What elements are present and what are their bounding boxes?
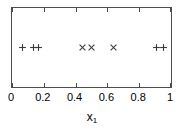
x-tick-top-0 <box>12 8 13 12</box>
x-tick-top-3 <box>107 8 108 12</box>
data-point-cross-1-2 <box>109 43 118 52</box>
x-tick-bottom-5 <box>170 83 171 87</box>
x-axis-title: x1 <box>0 110 184 126</box>
x-tick-label-3: 0.6 <box>99 91 114 104</box>
x-tick-bottom-2 <box>76 83 77 87</box>
data-point-cross-1-0 <box>78 43 87 52</box>
plot-area-frame <box>11 7 172 88</box>
x-tick-top-4 <box>139 8 140 12</box>
x-tick-top-1 <box>44 8 45 12</box>
x-tick-label-5: 1 <box>167 91 173 104</box>
data-point-plus-0-4 <box>159 43 168 52</box>
data-point-plus-0-0 <box>18 43 27 52</box>
x-tick-label-0: 0 <box>8 91 14 104</box>
x-tick-top-5 <box>170 8 171 12</box>
x-tick-label-2: 0.4 <box>67 91 82 104</box>
x-tick-bottom-0 <box>12 83 13 87</box>
x-tick-bottom-4 <box>139 83 140 87</box>
x-axis-title-base: x <box>87 110 93 124</box>
data-point-plus-0-2 <box>34 43 43 52</box>
x-tick-label-4: 0.8 <box>131 91 146 104</box>
x-tick-bottom-1 <box>44 83 45 87</box>
chart-figure: 00.20.40.60.81 x1 <box>0 0 184 134</box>
data-point-cross-1-1 <box>87 43 96 52</box>
x-axis-title-subscript: 1 <box>93 116 97 125</box>
x-tick-label-1: 0.2 <box>35 91 50 104</box>
x-tick-top-2 <box>76 8 77 12</box>
x-tick-bottom-3 <box>107 83 108 87</box>
